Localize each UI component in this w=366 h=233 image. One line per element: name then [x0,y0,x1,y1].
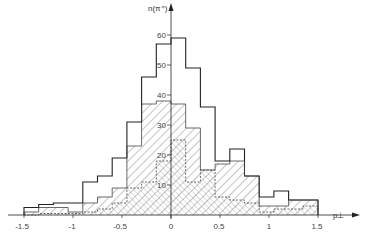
histogram-bin [142,182,157,215]
histogram-bin [112,203,127,215]
y-tick-label: 40 [157,91,166,100]
y-axis-arrow-icon [169,3,174,11]
x-axis-arrow-icon [352,213,360,218]
y-tick-label: 50 [157,61,166,70]
histogram-bin [215,197,230,215]
y-axis-label: n(π⁺) [148,4,168,13]
x-axis-label: p⊥ [333,211,344,220]
x-tick-label: -1 [69,222,77,231]
x-tick-label: 1 [267,222,272,231]
x-tick-label: -1.5 [15,222,29,231]
histogram-bin [303,206,318,215]
histogram-plot: -1.5-1-0.500.511.5102030405060 n(π⁺) p⊥ [0,0,366,233]
histogram-bin [230,200,245,215]
histogram-bin [98,209,113,215]
histogram-bin [186,182,201,215]
histogram-bin [289,209,304,215]
histogram-figure: -1.5-1-0.500.511.5102030405060 n(π⁺) p⊥ [0,0,366,233]
y-tick-label: 20 [157,151,166,160]
histogram-bin [83,212,98,215]
histogram-bin [171,140,186,215]
histogram-bin [200,170,215,215]
hatched-series-fine [39,140,318,215]
y-tick-label: 30 [157,121,166,130]
histogram-bin [127,188,142,215]
histogram-bin [259,212,274,215]
x-tick-label: 0.5 [213,222,225,231]
x-tick-label: -0.5 [113,222,127,231]
x-tick-label: 0 [169,222,174,231]
y-tick-label: 10 [157,181,166,190]
histogram-bin [24,212,39,215]
y-tick-label: 60 [157,31,166,40]
histogram-bin [274,209,289,215]
histogram-bin [245,203,260,215]
x-tick-label: 1.5 [311,222,323,231]
